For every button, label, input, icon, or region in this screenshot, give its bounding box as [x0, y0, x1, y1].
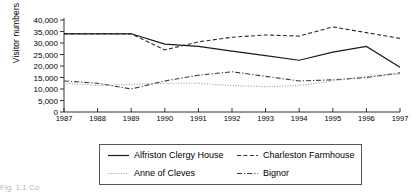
x-tick-label: 1992 [224, 114, 241, 123]
x-tick-label: 1989 [123, 114, 140, 123]
x-tick-label: 1990 [156, 114, 173, 123]
legend-label: Charleston Farmhouse [263, 150, 355, 160]
chart-legend: Alfriston Clergy House Charleston Farmho… [99, 144, 362, 185]
legend-label: Bignor [263, 168, 289, 178]
x-tick-label: 1993 [257, 114, 274, 123]
x-tick-label: 1987 [56, 114, 73, 123]
x-tick-label: 1988 [89, 114, 106, 123]
legend-entry-anne-of-cleves[interactable]: Anne of Cleves [108, 168, 195, 178]
legend-entry-bignor[interactable]: Bignor [237, 168, 289, 178]
x-tick-label: 1997 [392, 114, 409, 123]
x-tick-label: 1991 [190, 114, 207, 123]
caption-fragment: Fig. 1.1 Co [0, 183, 96, 195]
x-tick-label: 1996 [358, 114, 375, 123]
legend-entry-alfriston-clergy-house[interactable]: Alfriston Clergy House [108, 150, 224, 160]
legend-swatch-solid-icon [108, 151, 129, 160]
legend-label: Anne of Cleves [134, 168, 195, 178]
legend-swatch-dashed-icon [237, 151, 258, 160]
legend-label: Alfriston Clergy House [134, 150, 224, 160]
x-tick-label: 1995 [324, 114, 341, 123]
legend-swatch-dashdot-icon [237, 169, 258, 178]
legend-swatch-dotted-icon [108, 169, 129, 178]
legend-entry-charleston-farmhouse[interactable]: Charleston Farmhouse [237, 150, 355, 160]
chart-figure: Visitor numbers 40,000 35,000 30,000 25,… [0, 0, 412, 195]
x-tick-label: 1994 [291, 114, 308, 123]
